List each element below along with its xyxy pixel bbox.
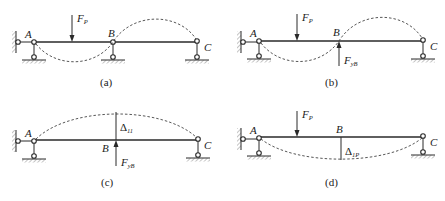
deflection-curve <box>261 17 422 61</box>
hinge-c-icon <box>421 134 426 139</box>
roller-support-b-icon <box>101 42 125 64</box>
node-c-label: C <box>204 139 212 151</box>
hinge-c-icon <box>195 39 200 44</box>
caption-d: (d) <box>325 176 338 189</box>
load-arrow-icon <box>70 15 75 42</box>
hinge-a-icon <box>257 39 262 44</box>
load-label: FP <box>76 12 88 25</box>
node-b-label: B <box>102 142 109 154</box>
load-label: FP <box>301 11 313 24</box>
roller-support-a-icon <box>22 42 46 64</box>
panel-d: Δ1P FP A B C (d) <box>237 108 438 189</box>
hinge-c-icon <box>421 38 426 43</box>
node-a-label: A <box>249 124 257 136</box>
hinge-icon <box>16 40 21 45</box>
node-a-label: A <box>24 127 32 139</box>
roller-support-a-icon <box>247 41 271 63</box>
hinge-c-icon <box>196 137 201 142</box>
node-c-label: C <box>430 136 438 148</box>
hinge-a-icon <box>32 139 37 144</box>
hinge-icon <box>241 137 246 142</box>
panel-a: FP A B C (a) <box>12 12 212 89</box>
node-a-label: A <box>249 27 257 39</box>
reaction-label: FyB <box>120 156 135 169</box>
node-c-label: C <box>430 40 438 52</box>
reaction-arrow-icon <box>337 41 342 66</box>
node-b-label: B <box>108 27 115 39</box>
node-c-label: C <box>204 41 212 53</box>
caption-b: (b) <box>325 76 338 89</box>
panel-b: FP FyB A B C (b) <box>237 11 438 89</box>
displacement-label: Δ11 <box>120 121 133 134</box>
displacement-label: Δ1P <box>345 145 359 158</box>
hinge-icon <box>241 40 246 45</box>
roller-support-a-icon <box>247 138 271 160</box>
caption-c: (c) <box>101 176 114 189</box>
hinge-a-icon <box>257 136 262 141</box>
node-b-label: B <box>333 26 340 38</box>
load-arrow-icon <box>295 14 300 41</box>
load-label: FP <box>301 108 313 121</box>
caption-a: (a) <box>100 76 113 89</box>
panel-c: Δ11 FyB A B C (c) <box>12 112 212 189</box>
node-b-label: B <box>336 123 343 135</box>
roller-support-a-icon <box>22 141 46 163</box>
hinge-icon <box>16 139 21 144</box>
deflection-curve <box>36 19 196 62</box>
hinge-a-icon <box>32 40 37 45</box>
node-a-label: A <box>24 28 32 40</box>
reaction-arrow-icon <box>114 140 119 166</box>
reaction-label: FyB <box>343 54 358 67</box>
load-arrow-icon <box>295 111 300 137</box>
force-method-beam-diagram: FP A B C (a) FP <box>0 0 445 201</box>
